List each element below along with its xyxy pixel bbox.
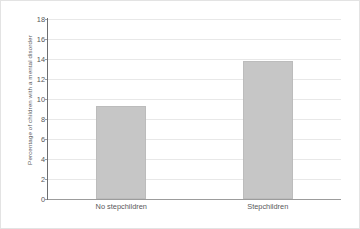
axis-baseline <box>48 199 341 200</box>
y-tick-label: 16 <box>5 35 45 44</box>
y-tick-label: 14 <box>5 55 45 64</box>
y-tick-label: 4 <box>5 155 45 164</box>
y-tick-label: 0 <box>5 195 45 204</box>
plot-area <box>48 19 341 199</box>
y-tick-label: 8 <box>5 115 45 124</box>
y-tick-label: 2 <box>5 175 45 184</box>
x-tick-label: Stepchildren <box>247 202 288 211</box>
x-axis-tick-labels: No stepchildrenStepchildren <box>48 202 341 218</box>
gridline <box>48 19 341 20</box>
bar <box>96 106 146 200</box>
gridline <box>48 59 341 60</box>
y-tick-label: 18 <box>5 15 45 24</box>
gridline <box>48 79 341 80</box>
x-tick-label: No stepchildren <box>96 202 147 211</box>
gridline <box>48 159 341 160</box>
bar <box>243 61 293 199</box>
bar-chart-figure: Percentage of children with a mental dis… <box>0 0 360 229</box>
gridline <box>48 179 341 180</box>
y-tick-label: 6 <box>5 135 45 144</box>
gridline <box>48 139 341 140</box>
y-tick-label: 10 <box>5 95 45 104</box>
gridline <box>48 39 341 40</box>
y-tick-label: 12 <box>5 75 45 84</box>
y-axis-tick-labels: 024681012141618 <box>1 19 45 199</box>
gridline <box>48 99 341 100</box>
gridline <box>48 119 341 120</box>
